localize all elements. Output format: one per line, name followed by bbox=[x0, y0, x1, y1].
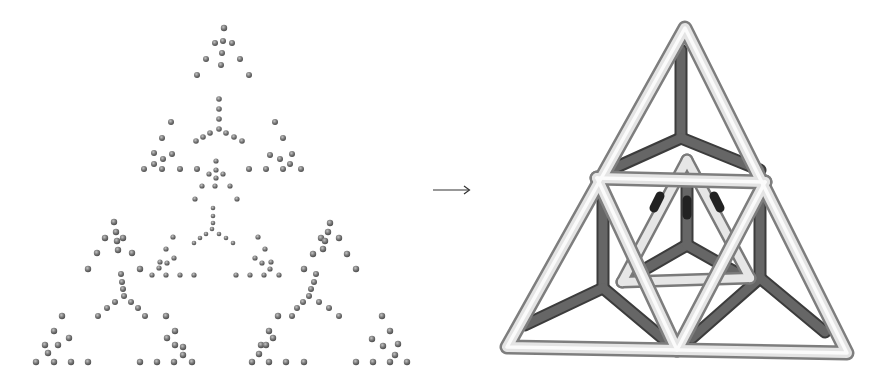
fractal-dot bbox=[211, 221, 216, 226]
fractal-dot bbox=[163, 313, 169, 319]
fractal-dot bbox=[380, 343, 386, 349]
fractal-dot bbox=[163, 272, 168, 277]
fractal-dot bbox=[135, 305, 141, 311]
fractal-dot bbox=[142, 313, 148, 319]
fractal-dot bbox=[289, 151, 295, 157]
fractal-dot bbox=[344, 251, 350, 257]
fractal-dot bbox=[259, 260, 264, 265]
fractal-dot bbox=[163, 246, 168, 251]
sierpinski-dot-fractal bbox=[0, 0, 420, 388]
fractal-dot bbox=[33, 359, 39, 365]
transform-arrow bbox=[425, 175, 475, 205]
fractal-dot bbox=[104, 305, 110, 311]
fractal-dot bbox=[353, 359, 359, 365]
fractal-dot bbox=[159, 135, 165, 141]
fractal-dot bbox=[172, 328, 178, 334]
fractal-dot bbox=[212, 183, 217, 188]
fractal-dot bbox=[85, 359, 91, 365]
fractal-dot bbox=[192, 241, 197, 246]
fractal-dot bbox=[102, 235, 108, 241]
fractal-dot bbox=[218, 62, 224, 68]
fractal-dot bbox=[42, 342, 48, 348]
fractal-dot bbox=[246, 166, 252, 172]
fractal-dot bbox=[111, 219, 117, 225]
fractal-dot bbox=[213, 167, 218, 172]
fractal-dot bbox=[157, 259, 162, 264]
fractal-dot bbox=[59, 313, 65, 319]
fractal-dot bbox=[256, 351, 262, 357]
fractal-dot bbox=[379, 313, 385, 319]
fractal-dot bbox=[160, 156, 166, 162]
fractal-dot bbox=[276, 272, 281, 277]
fractal-dot bbox=[164, 335, 170, 341]
fractal-dot bbox=[300, 299, 306, 305]
fractal-dot bbox=[326, 305, 332, 311]
fractal-dot bbox=[115, 247, 121, 253]
fractal-dot bbox=[229, 40, 235, 46]
fractal-dot bbox=[272, 119, 278, 125]
fractal-dot bbox=[252, 255, 257, 260]
right-arrow-icon bbox=[425, 175, 475, 205]
fractal-dot bbox=[369, 336, 375, 342]
fractal-dot bbox=[313, 271, 319, 277]
fractal-dot bbox=[353, 266, 359, 272]
fractal-dot bbox=[119, 279, 125, 285]
fractal-dot bbox=[189, 359, 195, 365]
fractal-dot bbox=[387, 328, 393, 334]
fractal-dot bbox=[199, 183, 204, 188]
fractal-dot bbox=[249, 359, 255, 365]
fractal-dot bbox=[221, 25, 227, 31]
fractal-dot bbox=[128, 299, 134, 305]
fractal-dots bbox=[33, 25, 410, 365]
fractal-dot bbox=[220, 171, 225, 176]
fractal-dot bbox=[194, 72, 200, 78]
fractal-dot bbox=[210, 227, 215, 232]
fractal-dot bbox=[203, 56, 209, 62]
fractal-dot bbox=[129, 250, 135, 256]
fractal-dot bbox=[280, 135, 286, 141]
dot-fractal-canvas bbox=[0, 0, 420, 388]
fractal-dot bbox=[156, 265, 161, 270]
fractal-dot bbox=[320, 246, 326, 252]
fractal-dot bbox=[200, 134, 206, 140]
fractal-dot bbox=[85, 266, 91, 272]
fractal-dot bbox=[191, 272, 196, 277]
fractal-dot bbox=[120, 286, 126, 292]
fractal-dot bbox=[289, 313, 295, 319]
fractal-dot bbox=[219, 50, 225, 56]
fractal-dot bbox=[212, 40, 218, 46]
fractal-dot bbox=[192, 196, 197, 201]
fractal-dot bbox=[316, 299, 322, 305]
fractal-dot bbox=[298, 166, 304, 172]
fractal-dot bbox=[51, 359, 57, 365]
fractal-dot bbox=[137, 359, 143, 365]
fractal-dot bbox=[113, 229, 119, 235]
fractal-dot bbox=[66, 335, 72, 341]
fractal-dot bbox=[246, 72, 252, 78]
fractal-dot bbox=[211, 206, 216, 211]
fractal-dot bbox=[294, 305, 300, 311]
fractal-dot bbox=[216, 126, 222, 132]
fractal-dot bbox=[247, 272, 252, 277]
fractal-dot bbox=[94, 250, 100, 256]
fractal-dot bbox=[239, 138, 245, 144]
fractal-dot bbox=[322, 238, 328, 244]
fractal-dot bbox=[268, 259, 273, 264]
fractal-dot bbox=[141, 166, 147, 172]
fractal-dot bbox=[370, 359, 376, 365]
fractal-dot bbox=[213, 158, 218, 163]
fractal-dot bbox=[325, 229, 331, 235]
fractal-dot bbox=[177, 166, 183, 172]
fractal-dot bbox=[392, 352, 398, 358]
fractal-dot bbox=[301, 359, 307, 365]
fractal-dot bbox=[262, 246, 267, 251]
fractal-dot bbox=[172, 342, 178, 348]
fractal-dot bbox=[149, 272, 154, 277]
fractal-dot bbox=[95, 313, 101, 319]
fractal-dot bbox=[231, 134, 237, 140]
fractal-dot bbox=[216, 116, 222, 122]
fractal-dot bbox=[180, 352, 186, 358]
fractal-dot bbox=[206, 171, 211, 176]
fractal-dot bbox=[45, 350, 51, 356]
fractal-dot bbox=[180, 344, 186, 350]
